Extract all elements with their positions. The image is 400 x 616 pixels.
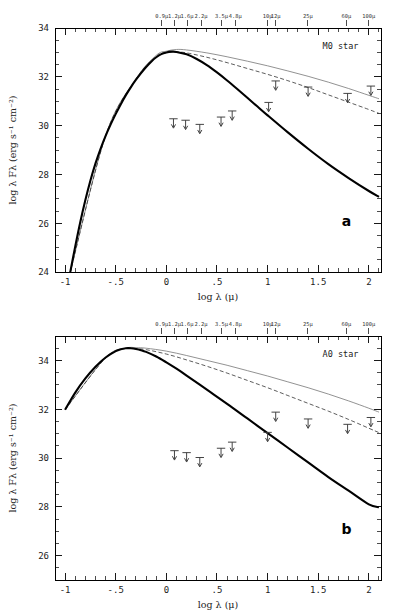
upper-limit-marker	[182, 453, 190, 462]
y-tick-label: 28	[38, 502, 49, 512]
upper-limit-marker	[169, 119, 177, 128]
star-type-label: A0 star	[323, 349, 359, 359]
y-axis-title: log λ Fλ (erg s⁻¹ cm⁻²)	[7, 403, 18, 512]
x-tick-label: 2	[366, 585, 371, 595]
top-axis-label: 25μ	[303, 321, 313, 328]
top-axis-label: 3.5μ	[215, 13, 229, 20]
x-tick-label: 1	[265, 585, 270, 595]
top-axis-label: 2.2μ	[195, 13, 209, 20]
x-tick-label: 0	[164, 277, 169, 287]
x-tick-label: 1.5	[310, 277, 326, 287]
top-axis-label: 100μ	[362, 13, 376, 20]
upper-limit-marker	[228, 111, 236, 120]
top-axis-label: 1.6μ	[181, 321, 195, 328]
top-axis-label: 3.5μ	[215, 321, 229, 328]
top-axis-label: 60μ	[342, 13, 352, 20]
y-tick-label: 24	[38, 267, 49, 277]
x-axis-title: log λ (μ)	[198, 599, 239, 610]
y-axis-title: log λ Fλ (erg s⁻¹ cm⁻²)	[7, 95, 18, 204]
y-tick-label: 34	[38, 356, 49, 366]
curve-thin-solid	[70, 49, 379, 272]
top-axis-label: 12μ	[271, 321, 281, 328]
top-axis-label: 100μ	[362, 321, 376, 328]
upper-limit-marker	[196, 124, 204, 133]
top-axis-label: 60μ	[342, 321, 352, 328]
star-type-label: M0 star	[323, 41, 359, 51]
panel-letter: a	[342, 213, 351, 229]
upper-limit-marker	[367, 86, 375, 95]
y-tick-label: 32	[38, 72, 49, 82]
chart-panel-b: -1-.50.511.5226283032340.9μ1.2μ1.6μ2.2μ3…	[0, 308, 400, 616]
upper-limit-marker	[228, 442, 236, 451]
curve-thick-solid	[70, 52, 379, 273]
plot-area-a: -1-.50.511.522426283032340.9μ1.2μ1.6μ2.2…	[0, 0, 400, 308]
upper-limit-marker	[196, 458, 204, 467]
upper-limit-marker	[217, 117, 225, 126]
x-tick-label: -.5	[108, 585, 124, 595]
upper-limit-marker	[217, 448, 225, 457]
y-tick-label: 30	[38, 453, 49, 463]
y-tick-label: 32	[38, 405, 49, 415]
x-tick-label: 0	[164, 585, 169, 595]
upper-limit-marker	[264, 102, 272, 111]
upper-limit-marker	[263, 432, 271, 441]
upper-limit-marker	[367, 417, 375, 426]
y-tick-label: 28	[38, 170, 49, 180]
x-tick-label: 2	[366, 277, 371, 287]
x-tick-label: -1	[60, 585, 71, 595]
curve-dashed	[65, 348, 379, 433]
x-tick-label: -1	[60, 277, 71, 287]
top-axis-label: 2.2μ	[195, 321, 209, 328]
chart-panel-a: -1-.50.511.522426283032340.9μ1.2μ1.6μ2.2…	[0, 0, 400, 308]
top-axis-label: 1.6μ	[181, 13, 195, 20]
figure-root: -1-.50.511.522426283032340.9μ1.2μ1.6μ2.2…	[0, 0, 400, 616]
y-tick-label: 30	[38, 121, 49, 131]
x-tick-label: .5	[212, 585, 223, 595]
upper-limit-marker	[170, 451, 178, 460]
curve-thick-solid	[65, 348, 379, 507]
upper-limit-marker	[181, 120, 189, 129]
x-tick-label: 1	[265, 277, 270, 287]
x-tick-label: 1.5	[310, 585, 326, 595]
upper-limit-marker	[343, 93, 351, 102]
upper-limit-marker	[272, 412, 280, 421]
top-axis-label: 4.8μ	[229, 13, 243, 20]
top-axis-label: 12μ	[271, 13, 281, 20]
y-tick-label: 26	[38, 219, 49, 229]
upper-limit-marker	[343, 424, 351, 433]
x-tick-label: .5	[212, 277, 223, 287]
x-axis-title: log λ (μ)	[198, 291, 239, 302]
upper-limit-marker	[304, 419, 312, 428]
y-tick-label: 34	[38, 23, 49, 33]
upper-limit-marker	[272, 81, 280, 90]
plot-frame	[55, 336, 381, 580]
x-tick-label: -.5	[108, 277, 124, 287]
plot-area-b: -1-.50.511.5226283032340.9μ1.2μ1.6μ2.2μ3…	[0, 308, 400, 616]
curve-dashed	[70, 52, 379, 273]
panel-letter: b	[342, 521, 352, 537]
top-axis-label: 25μ	[303, 13, 313, 20]
plot-frame	[55, 28, 381, 272]
top-axis-label: 4.8μ	[229, 321, 243, 328]
y-tick-label: 26	[38, 551, 49, 561]
